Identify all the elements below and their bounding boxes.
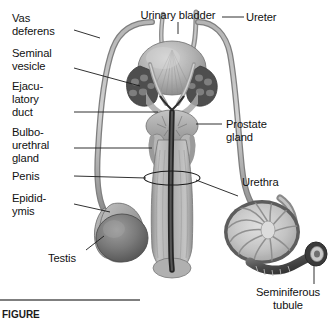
figure-caption: FIGURE <box>2 309 40 320</box>
label-ureter: Ureter <box>246 11 277 23</box>
label-ejaculatory-duct-line2: latory <box>12 93 39 105</box>
label-prostate-gland-line2: gland <box>226 131 253 143</box>
label-ejaculatory-duct-line3: duct <box>12 106 34 118</box>
leader-urethra <box>196 180 238 196</box>
testis-right-cutaway <box>224 196 300 264</box>
label-seminiferous-line1: Seminiferous <box>256 286 321 298</box>
label-ejaculatory-duct-line1: Ejacu- <box>12 80 43 92</box>
label-vas-deferens-line2: deferens <box>12 25 55 37</box>
leader-penis <box>74 176 146 178</box>
label-vas-deferens-line1: Vas <box>12 12 31 24</box>
label-seminal-vesicle-line2: vesicle <box>12 60 46 72</box>
leader-vas-deferens <box>74 30 100 38</box>
male-reproductive-system-diagram: Vas deferens Seminal vesicle Ejacu- lato… <box>0 0 336 320</box>
vas-deferens-left <box>97 22 152 210</box>
label-bulbourethral-line1: Bulbo- <box>12 126 44 138</box>
label-epididymis-line1: Epidid- <box>12 192 46 204</box>
label-urethra: Urethra <box>242 176 279 188</box>
label-bulbourethral-line2: urethral <box>12 139 49 151</box>
figure-container: Vas deferens Seminal vesicle Ejacu- lato… <box>0 0 336 320</box>
label-urinary-bladder: Urinary bladder <box>141 9 216 21</box>
label-bulbourethral-line3: gland <box>12 152 39 164</box>
label-seminiferous-line2: tubule <box>273 299 303 311</box>
label-seminal-vesicle-line1: Seminal <box>12 47 52 59</box>
testis-left <box>94 203 148 262</box>
anatomy-illustration <box>94 12 327 278</box>
label-epididymis-line2: ymis <box>12 205 35 217</box>
label-testis: Testis <box>48 252 77 264</box>
labels-left: Vas deferens Seminal vesicle Ejacu- lato… <box>12 12 77 264</box>
label-penis: Penis <box>12 170 40 182</box>
label-prostate-gland-line1: Prostate <box>226 118 267 130</box>
urethra-canal <box>171 112 172 270</box>
